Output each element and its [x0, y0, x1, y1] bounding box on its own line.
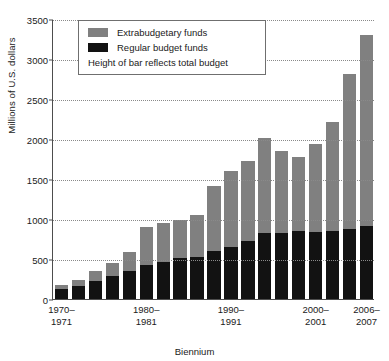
bar-segment-regular	[89, 281, 102, 299]
bar	[309, 144, 322, 299]
bar-segment-extrabudgetary	[326, 122, 339, 232]
y-tick-mark	[49, 100, 53, 101]
bar	[258, 138, 271, 299]
y-tick-mark	[49, 180, 53, 181]
x-tick-label-line1: 1990–	[218, 304, 244, 316]
x-tick-label-line1: 2006–	[353, 304, 379, 316]
y-tick-mark	[49, 20, 53, 21]
x-tick-label-line1: 1970–	[48, 304, 74, 316]
bar-segment-regular	[326, 231, 339, 299]
bar-segment-extrabudgetary	[173, 220, 186, 258]
bar	[241, 161, 254, 299]
legend-item-extrabudgetary: Extrabudgetary funds	[88, 27, 257, 38]
bar-segment-regular	[258, 233, 271, 299]
gridline	[53, 140, 374, 141]
bar-segment-regular	[275, 233, 288, 299]
bar	[140, 227, 153, 299]
x-tick-label: 1970–1971	[48, 304, 74, 327]
bar-segment-regular	[241, 241, 254, 299]
y-tick-label: 2000	[27, 135, 48, 146]
x-tick-label-line1: 2000–	[302, 304, 328, 316]
legend-note: Height of bar reflects total budget	[88, 57, 257, 68]
bar	[343, 74, 356, 299]
y-tick-label: 3000	[27, 55, 48, 66]
bar-segment-extrabudgetary	[343, 74, 356, 228]
bar	[207, 186, 220, 299]
bar-segment-extrabudgetary	[157, 223, 170, 262]
legend-label-extrabudgetary: Extrabudgetary funds	[117, 27, 207, 38]
x-tick-label: 2000–2001	[302, 304, 328, 327]
legend-swatch-icon-extrabudgetary	[88, 28, 108, 37]
x-tick-label-line2: 2001	[302, 316, 328, 328]
bar-segment-regular	[55, 289, 68, 299]
x-tick-label: 1980–1981	[133, 304, 159, 327]
bar	[190, 215, 203, 299]
y-tick-mark	[49, 60, 53, 61]
bar-segment-extrabudgetary	[309, 144, 322, 232]
chart-legend: Extrabudgetary funds Regular budget fund…	[78, 20, 266, 75]
bar-segment-regular	[190, 257, 203, 299]
gridline	[53, 100, 374, 101]
bar-segment-extrabudgetary	[224, 171, 237, 247]
legend-label-regular: Regular budget funds	[117, 42, 208, 53]
y-tick-mark	[49, 140, 53, 141]
x-tick-label-line2: 1981	[133, 316, 159, 328]
gridline	[53, 220, 374, 221]
bar-segment-regular	[173, 258, 186, 299]
bar-segment-regular	[343, 229, 356, 299]
bar	[106, 263, 119, 299]
bar-segment-regular	[224, 247, 237, 299]
bar	[89, 271, 102, 299]
x-tick-label-line1: 1980–	[133, 304, 159, 316]
bar-segment-extrabudgetary	[241, 161, 254, 240]
bar-segment-regular	[309, 232, 322, 299]
y-tick-label: 500	[32, 255, 48, 266]
y-tick-mark	[49, 300, 53, 301]
legend-swatch-icon-regular	[88, 43, 108, 52]
gridline	[53, 180, 374, 181]
y-tick-mark	[49, 260, 53, 261]
bar	[275, 151, 288, 299]
x-tick-label: 2006–2007	[353, 304, 379, 327]
bar-segment-regular	[292, 231, 305, 299]
bar-segment-regular	[207, 251, 220, 299]
x-tick-label: 1990–1991	[218, 304, 244, 327]
x-tick-label-line2: 1971	[48, 316, 74, 328]
bar	[123, 252, 136, 299]
bar	[72, 280, 85, 299]
bar-segment-regular	[157, 262, 170, 299]
bar	[292, 157, 305, 299]
bar	[55, 285, 68, 299]
chart-root: Millions of U.S. dollars 050010001500200…	[0, 0, 389, 361]
bar-segment-regular	[106, 276, 119, 299]
bar-segment-extrabudgetary	[275, 151, 288, 233]
bar-segment-regular	[360, 226, 373, 299]
bar-segment-extrabudgetary	[123, 252, 136, 271]
bar-segment-regular	[123, 271, 136, 299]
x-axis-title: Biennium	[0, 346, 389, 357]
bar	[224, 171, 237, 299]
y-tick-label: 1500	[27, 175, 48, 186]
y-tick-label: 1000	[27, 215, 48, 226]
y-axis-title: Millions of U.S. dollars	[6, 0, 17, 181]
legend-item-regular: Regular budget funds	[88, 42, 257, 53]
bar	[326, 122, 339, 299]
bar-segment-extrabudgetary	[106, 263, 119, 276]
y-tick-label: 0	[43, 295, 48, 306]
x-tick-label-line2: 1991	[218, 316, 244, 328]
bar-segment-regular	[72, 286, 85, 299]
bar-segment-regular	[140, 265, 153, 299]
x-tick-label-line2: 2007	[353, 316, 379, 328]
bar-segment-extrabudgetary	[89, 271, 102, 281]
bar-segment-extrabudgetary	[207, 186, 220, 251]
y-tick-label: 2500	[27, 95, 48, 106]
gridline	[53, 260, 374, 261]
y-tick-label: 3500	[27, 15, 48, 26]
y-tick-mark	[49, 220, 53, 221]
bar-segment-extrabudgetary	[360, 35, 373, 226]
